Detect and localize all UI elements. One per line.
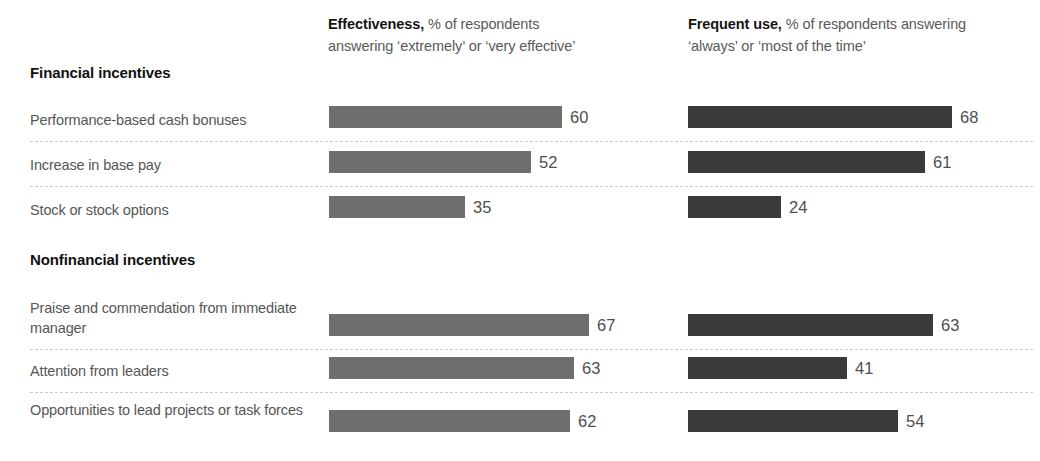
bar-frequent-use [688, 357, 847, 379]
bar-effectiveness [329, 196, 465, 218]
column-header-effectiveness: Effectiveness, % of respondents answerin… [328, 13, 578, 57]
bar-value-effectiveness: 62 [578, 410, 596, 432]
column-header-frequent-use-bold: Frequent use, [688, 16, 782, 32]
row-label: Praise and commendation from immediate m… [30, 298, 320, 338]
incentives-bar-chart: Effectiveness, % of respondents answerin… [0, 0, 1040, 461]
group-title-financial-incentives: Financial incentives [30, 64, 171, 81]
bar-value-effectiveness: 60 [570, 106, 588, 128]
bar-frequent-use [688, 196, 781, 218]
bar-value-frequent-use: 63 [941, 314, 959, 336]
row-label: Attention from leaders [30, 361, 320, 381]
bar-frequent-use [688, 151, 925, 173]
row-separator [30, 186, 1033, 187]
bar-value-effectiveness: 35 [473, 196, 491, 218]
row-separator [30, 349, 1033, 350]
bar-value-frequent-use: 24 [789, 196, 807, 218]
bar-value-frequent-use: 41 [855, 357, 873, 379]
row-separator [30, 141, 1033, 142]
bar-effectiveness [329, 106, 562, 128]
bar-effectiveness [329, 314, 589, 336]
bar-effectiveness [329, 357, 574, 379]
bar-value-effectiveness: 63 [582, 357, 600, 379]
bar-value-frequent-use: 54 [906, 410, 924, 432]
row-label: Performance-based cash bonuses [30, 110, 320, 130]
bar-frequent-use [688, 410, 898, 432]
bar-effectiveness [329, 410, 570, 432]
column-header-effectiveness-bold: Effectiveness, [328, 16, 424, 32]
bar-effectiveness [329, 151, 531, 173]
row-label: Opportunities to lead projects or task f… [30, 400, 320, 420]
bar-value-effectiveness: 52 [539, 151, 557, 173]
bar-value-effectiveness: 67 [597, 314, 615, 336]
bar-value-frequent-use: 61 [933, 151, 951, 173]
column-header-frequent-use: Frequent use, % of respondents answering… [688, 13, 988, 57]
row-label: Stock or stock options [30, 200, 320, 220]
bar-value-frequent-use: 68 [960, 106, 978, 128]
bar-frequent-use [688, 106, 952, 128]
group-title-nonfinancial-incentives: Nonfinancial incentives [30, 251, 195, 268]
bar-frequent-use [688, 314, 933, 336]
row-label: Increase in base pay [30, 155, 320, 175]
row-separator [30, 392, 1033, 393]
